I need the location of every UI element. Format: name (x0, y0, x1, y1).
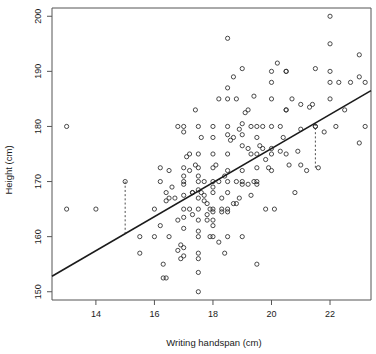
y-tick-label: 180 (33, 119, 43, 134)
x-tick-label: 20 (266, 309, 276, 319)
y-tick-label: 160 (33, 229, 43, 244)
x-tick-label: 22 (325, 309, 335, 319)
plot-canvas: 150160170180190200 1416182022 Writing ha… (0, 0, 376, 354)
x-tick-label: 14 (91, 309, 101, 319)
figure-background (0, 0, 376, 354)
scatter-plot-figure: 150160170180190200 1416182022 Writing ha… (0, 0, 376, 354)
y-tick-label: 190 (33, 64, 43, 79)
y-tick-label: 150 (33, 284, 43, 299)
x-tick-label: 18 (208, 309, 218, 319)
x-tick-label: 16 (149, 309, 159, 319)
y-axis-title: Height (cm) (3, 145, 14, 194)
x-axis-title: Writing handspan (cm) (166, 337, 261, 348)
y-tick-label: 200 (33, 9, 43, 24)
y-tick-label: 170 (33, 174, 43, 189)
